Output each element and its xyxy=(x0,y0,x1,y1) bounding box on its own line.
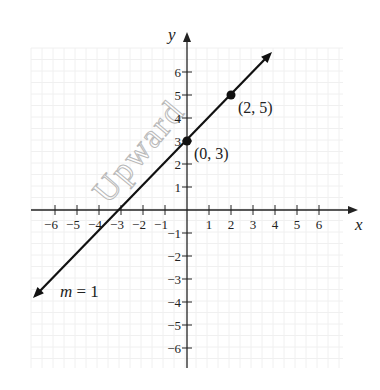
x-axis-arrow-icon xyxy=(348,206,358,214)
y-tick-label: −3 xyxy=(167,272,181,287)
y-tick-label: 5 xyxy=(175,88,182,103)
x-axis-label: x xyxy=(354,215,363,234)
x-tick-label: 2 xyxy=(228,217,235,232)
x-tick-label: −3 xyxy=(110,217,124,232)
x-tick-label: −2 xyxy=(132,217,146,232)
slope-annotation: m = 1 xyxy=(60,282,99,301)
y-tick-label: 6 xyxy=(175,65,182,80)
x-tick-label: −6 xyxy=(44,217,58,232)
y-tick-label: 4 xyxy=(175,111,182,126)
y-tick-label: 1 xyxy=(175,180,182,195)
y-tick-label: 3 xyxy=(175,134,182,149)
y-tick-label: −4 xyxy=(167,295,181,310)
y-axis-label: y xyxy=(166,25,176,44)
y-tick-label: −6 xyxy=(167,341,181,356)
y-tick-label: 2 xyxy=(175,157,182,172)
point-label: (2, 5) xyxy=(238,99,273,117)
y-tick-label: −2 xyxy=(167,249,181,264)
coordinate-plane: Upward −6−5−4−3−2−1123456−6−5−4−3−2−1123… xyxy=(0,0,380,390)
x-tick-label: −1 xyxy=(154,217,168,232)
data-point xyxy=(183,137,192,146)
y-tick-label: −1 xyxy=(167,226,181,241)
x-tick-label: 5 xyxy=(294,217,301,232)
data-point xyxy=(227,91,236,100)
point-label: (0, 3) xyxy=(194,145,229,163)
x-tick-label: 3 xyxy=(250,217,257,232)
x-tick-label: 6 xyxy=(316,217,323,232)
x-tick-label: 4 xyxy=(272,217,279,232)
y-axis-arrow-icon xyxy=(183,32,191,42)
x-tick-label: −5 xyxy=(66,217,80,232)
x-tick-label: −4 xyxy=(88,217,102,232)
y-tick-label: −5 xyxy=(167,318,181,333)
x-tick-label: 1 xyxy=(206,217,213,232)
